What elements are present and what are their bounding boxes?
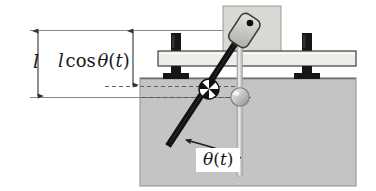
support-bar [158, 51, 356, 66]
pivot-dot [247, 20, 254, 27]
projected-length-label: l cos θ(t) [58, 52, 130, 70]
right-bolt-post [302, 33, 312, 52]
diagram-canvas [0, 0, 376, 191]
left-bolt-post [171, 33, 181, 52]
left-bolt-foot [163, 66, 189, 79]
length-label: l [33, 52, 39, 71]
right-bolt-foot [294, 66, 320, 79]
slider-sphere [231, 88, 249, 106]
pendulum-diagram: l l cos θ(t) θ(t) [0, 0, 376, 191]
angle-label: θ(t) [196, 148, 240, 172]
mass-sphere [199, 79, 219, 99]
